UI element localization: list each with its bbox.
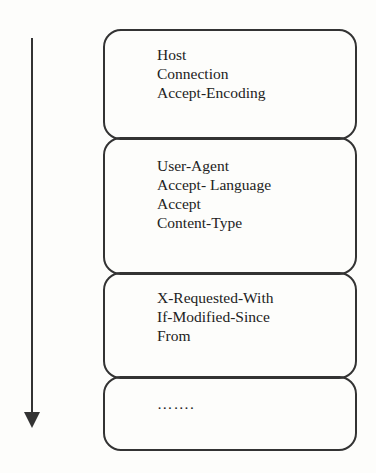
order-arrow-shaft bbox=[31, 38, 33, 416]
header-group-3-list: X-Requested-With If-Modified-Since From bbox=[157, 288, 273, 345]
header-name: From bbox=[157, 326, 273, 345]
arrow-down-icon bbox=[24, 412, 40, 428]
header-name: Connection bbox=[157, 64, 265, 83]
header-name: If-Modified-Since bbox=[157, 307, 273, 326]
header-group-box-2: User-Agent Accept- Language Accept Conte… bbox=[103, 137, 357, 275]
header-name: Host bbox=[157, 45, 265, 64]
header-group-box-3: X-Requested-With If-Modified-Since From bbox=[103, 272, 357, 379]
header-name: Content-Type bbox=[157, 213, 271, 232]
header-group-1-list: Host Connection Accept-Encoding bbox=[157, 45, 265, 102]
header-name: X-Requested-With bbox=[157, 288, 273, 307]
header-group-4-list: ……. bbox=[157, 394, 195, 413]
ellipsis-more-headers: ……. bbox=[157, 394, 195, 413]
header-name: Accept- Language bbox=[157, 175, 271, 194]
header-name: Accept-Encoding bbox=[157, 83, 265, 102]
http-header-order-diagram: Host Connection Accept-Encoding User-Age… bbox=[0, 0, 376, 473]
header-group-box-4: ……. bbox=[103, 376, 357, 451]
header-group-box-1: Host Connection Accept-Encoding bbox=[103, 29, 357, 140]
header-name: Accept bbox=[157, 194, 271, 213]
header-name: User-Agent bbox=[157, 156, 271, 175]
header-group-2-list: User-Agent Accept- Language Accept Conte… bbox=[157, 156, 271, 232]
